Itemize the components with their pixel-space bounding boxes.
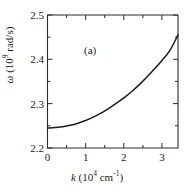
x-axis-units-mantissa: 10	[82, 171, 93, 183]
y-tick-marks	[48, 15, 179, 148]
y-axis-units-unit: rad/s	[3, 30, 15, 51]
x-axis-symbol: k	[71, 171, 76, 183]
x-axis-units-unit: cm	[100, 171, 113, 183]
y-tick-label: 2.3	[30, 98, 44, 110]
y-axis-units-exponent: 9	[1, 54, 10, 58]
y-axis-title-wrapper: ω (109 rad/s)	[4, 0, 18, 110]
x-axis-title: k (104 cm-1)	[0, 172, 194, 183]
figure-panel-a: 2.5 2.4 2.3 2.2 0 1 2 3 (a) k (104 cm-1)…	[0, 0, 194, 195]
x-tick-labels: 0 1 2 3	[45, 151, 165, 163]
y-tick-label: 2.4	[30, 53, 44, 65]
plot-frame	[48, 15, 179, 148]
x-tick-marks	[48, 15, 162, 148]
y-tick-labels: 2.5 2.4 2.3 2.2	[30, 9, 44, 154]
x-axis-units-exponent: 4	[93, 169, 97, 178]
dispersion-curve	[48, 35, 179, 128]
y-axis-title: ω (109 rad/s)	[4, 0, 15, 110]
dispersion-plot: 2.5 2.4 2.3 2.2 0 1 2 3	[0, 0, 194, 195]
y-axis-symbol: ω	[3, 76, 15, 84]
x-tick-label: 0	[45, 151, 51, 163]
x-tick-label: 1	[83, 151, 89, 163]
x-tick-label: 2	[121, 151, 127, 163]
panel-label: (a)	[84, 44, 96, 56]
y-tick-label: 2.2	[30, 142, 44, 154]
y-tick-label: 2.5	[30, 9, 44, 21]
x-tick-label: 3	[159, 151, 165, 163]
x-axis-units-unit-exponent: -1	[113, 169, 119, 178]
y-axis-units-mantissa: 10	[3, 58, 15, 69]
